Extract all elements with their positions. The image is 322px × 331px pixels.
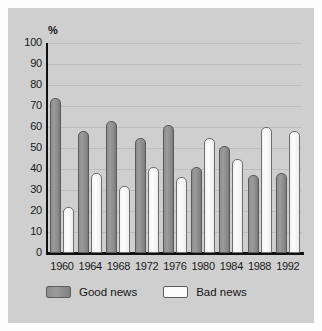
bar-bad-news[interactable] <box>176 177 187 253</box>
chart-figure: % 0102030405060708090100 196019641968197… <box>8 8 314 323</box>
x-axis-tick-label: 1984 <box>216 260 246 272</box>
y-axis-unit-label: % <box>48 24 58 36</box>
x-axis-tick-label: 1972 <box>132 260 162 272</box>
legend-label: Bad news <box>196 286 247 298</box>
bar-bad-news[interactable] <box>204 138 215 254</box>
legend-swatch-bad <box>163 286 188 298</box>
y-axis-tick-label: 90 <box>2 58 42 69</box>
x-axis-tick-label: 1988 <box>245 260 275 272</box>
x-axis-tick-label: 1980 <box>188 260 218 272</box>
legend-item[interactable]: Good news <box>46 286 137 298</box>
bar-good-news[interactable] <box>163 125 174 253</box>
bar-group <box>248 43 274 253</box>
y-axis-tick-label: 70 <box>2 100 42 111</box>
y-axis-tick-label: 30 <box>2 184 42 195</box>
x-axis-tick-label: 1960 <box>47 260 77 272</box>
y-axis-tick-label: 80 <box>2 79 42 90</box>
bar-group <box>106 43 132 253</box>
bar-bad-news[interactable] <box>119 186 130 253</box>
bar-good-news[interactable] <box>219 146 230 253</box>
bar-group <box>219 43 245 253</box>
bar-group <box>135 43 161 253</box>
y-axis-tick-label: 20 <box>2 205 42 216</box>
bar-bad-news[interactable] <box>148 167 159 253</box>
bar-group <box>50 43 76 253</box>
bar-group <box>78 43 104 253</box>
y-axis-tick-label: 40 <box>2 163 42 174</box>
y-axis-tick-label: 60 <box>2 121 42 132</box>
bar-bad-news[interactable] <box>289 131 300 253</box>
y-axis-tick-label: 0 <box>2 247 42 258</box>
legend-swatch-good <box>46 286 71 298</box>
bar-good-news[interactable] <box>106 121 117 253</box>
x-axis-tick-label: 1992 <box>273 260 303 272</box>
legend-item[interactable]: Bad news <box>163 286 247 298</box>
bar-good-news[interactable] <box>78 131 89 253</box>
bar-group <box>163 43 189 253</box>
plot-area: 0102030405060708090100 <box>48 43 302 253</box>
bar-good-news[interactable] <box>135 138 146 254</box>
y-axis-tick-label: 100 <box>2 37 42 48</box>
x-axis-tick-label: 1964 <box>75 260 105 272</box>
bar-good-news[interactable] <box>191 167 202 253</box>
bar-group <box>276 43 302 253</box>
legend-label: Good news <box>79 286 137 298</box>
y-axis-tick-label: 50 <box>2 142 42 153</box>
gridline <box>48 253 302 254</box>
chart-legend: Good newsBad news <box>46 286 273 298</box>
bar-good-news[interactable] <box>248 175 259 253</box>
bar-good-news[interactable] <box>276 173 287 253</box>
bar-bad-news[interactable] <box>91 173 102 253</box>
bar-bad-news[interactable] <box>63 207 74 253</box>
x-axis-tick-label: 1976 <box>160 260 190 272</box>
bar-group <box>191 43 217 253</box>
bar-bad-news[interactable] <box>232 159 243 254</box>
bar-good-news[interactable] <box>50 98 61 253</box>
bar-bad-news[interactable] <box>261 127 272 253</box>
x-axis-tick-label: 1968 <box>103 260 133 272</box>
y-axis-tick-label: 10 <box>2 226 42 237</box>
